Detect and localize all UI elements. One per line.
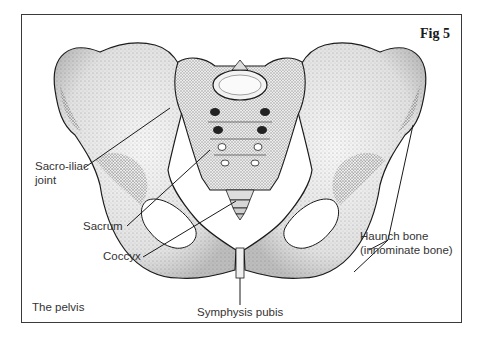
label-haunch-bone-line1: Haunch bone — [360, 229, 453, 243]
figure-caption: The pelvis — [32, 300, 84, 314]
symphysis-pubis-shape — [236, 248, 244, 278]
figure-title: Fig 5 — [420, 26, 450, 42]
label-symphysis-pubis: Symphysis pubis — [197, 305, 283, 319]
label-sacro-iliac-line1: Sacro-iliac — [35, 159, 89, 173]
label-sacro-iliac-line2: joint — [35, 173, 89, 187]
label-sacro-iliac: Sacro-iliac joint — [35, 159, 89, 187]
label-sacrum: Sacrum — [83, 219, 123, 233]
label-haunch-bone: Haunch bone (innominate bone) — [360, 229, 453, 257]
label-haunch-bone-line2: (innominate bone) — [360, 243, 453, 257]
label-coccyx: Coccyx — [103, 249, 141, 263]
sacrum — [175, 58, 305, 190]
